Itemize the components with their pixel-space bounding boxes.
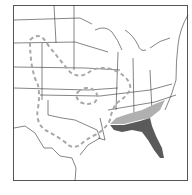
light-shaded-range [110,100,165,124]
range-map [0,0,192,195]
